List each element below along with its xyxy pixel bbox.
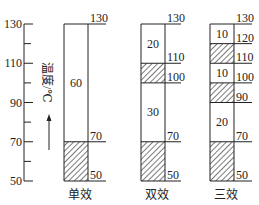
boundary-label: 130 (236, 11, 254, 25)
tick-label: 50 (10, 174, 22, 188)
column-2: 30205070100110130双效 (141, 11, 185, 202)
hatched-segment (141, 63, 165, 83)
hatched-segment (210, 83, 234, 103)
segment-value: 10 (216, 27, 228, 41)
column-name: 双效 (145, 187, 169, 202)
column-name: 单效 (68, 187, 92, 202)
column-name: 三效 (214, 187, 238, 202)
boundary-label: 50 (90, 168, 102, 182)
arrow-head-icon (47, 114, 52, 121)
segment-value: 30 (147, 105, 159, 119)
column-3: 201010507090100110120130三效 (210, 11, 254, 202)
tick-label: 90 (10, 96, 22, 110)
tick-label: 70 (10, 135, 22, 149)
hatched-segment (141, 142, 165, 181)
temperature-diagram: 507090110130 温度/℃ 605070130单效30205070100… (0, 0, 259, 205)
columns: 605070130单效30205070100110130双效2010105070… (64, 11, 254, 202)
boundary-label: 90 (236, 90, 248, 104)
boundary-label: 100 (236, 70, 254, 84)
hatched-segment (210, 44, 234, 64)
boundary-label: 70 (90, 129, 102, 143)
boundary-label: 50 (167, 168, 179, 182)
boundary-label: 130 (167, 11, 185, 25)
segment-value: 20 (216, 115, 228, 129)
diagram-canvas: 507090110130 温度/℃ 605070130单效30205070100… (0, 0, 259, 205)
boundary-label: 100 (167, 70, 185, 84)
hatched-segment (210, 142, 234, 181)
boundary-label: 110 (236, 50, 254, 64)
boundary-label: 120 (236, 31, 254, 45)
boundary-label: 70 (167, 129, 179, 143)
column-1: 605070130单效 (64, 11, 108, 202)
axis-label: 温度/℃ (40, 62, 55, 150)
temperature-axis: 507090110130 (4, 17, 33, 188)
segment-value: 20 (147, 37, 159, 51)
hatched-segment (64, 142, 88, 181)
segment-value: 10 (216, 66, 228, 80)
boundary-label: 50 (236, 168, 248, 182)
boundary-label: 70 (236, 129, 248, 143)
segment-value: 60 (70, 76, 82, 90)
boundary-label: 110 (167, 50, 185, 64)
boundary-label: 130 (90, 11, 108, 25)
tick-label: 110 (4, 56, 22, 70)
axis-title: 温度/℃ (40, 62, 55, 103)
tick-label: 130 (4, 17, 22, 31)
